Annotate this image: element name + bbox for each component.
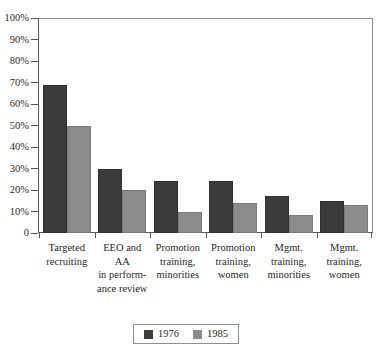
y-axis-tick-label: 50% xyxy=(10,119,29,133)
x-axis-category-label: Mgmt.training,minorities xyxy=(261,241,317,282)
legend-swatch-icon xyxy=(193,330,202,339)
x-axis-category-label-line: women xyxy=(207,268,261,282)
bar-1976-0 xyxy=(43,85,67,233)
bar-1985-4 xyxy=(289,215,313,233)
y-axis-tick-label: 10% xyxy=(10,205,29,219)
x-axis-category-label-line: ance review xyxy=(96,282,150,296)
y-axis-tick-label: 30% xyxy=(10,162,29,176)
legend-swatch-icon xyxy=(144,330,153,339)
y-axis-tick-mark xyxy=(31,168,38,169)
x-axis-tick-mark xyxy=(39,233,40,238)
x-axis-category-label: Mgmt.training,women xyxy=(317,241,373,282)
x-axis-tick-mark xyxy=(261,233,262,238)
y-axis-tick: 80% xyxy=(0,54,38,68)
y-axis-tick: 70% xyxy=(0,76,38,90)
legend-label: 1976 xyxy=(158,328,179,340)
y-axis-tick: 40% xyxy=(0,140,38,154)
x-axis-category-label: Promotiontraining,minorities xyxy=(150,241,206,282)
legend-entry[interactable]: 1985 xyxy=(193,328,228,340)
y-axis: 010%20%30%40%50%60%70%80%90%100% xyxy=(0,0,38,251)
x-axis-category-label-line: Targeted xyxy=(40,241,94,255)
y-axis-tick-label: 80% xyxy=(10,54,29,68)
bar-1976-2 xyxy=(154,181,178,233)
y-axis-tick: 10% xyxy=(0,205,38,219)
y-axis-tick-mark xyxy=(31,233,38,234)
y-axis-tick-label: 0 xyxy=(24,226,29,240)
chart-legend: 19761985 xyxy=(133,324,239,344)
x-axis-category-label-line: minorities xyxy=(151,268,205,282)
bar-chart: 010%20%30%40%50%60%70%80%90%100% Targete… xyxy=(0,0,384,351)
bar-group xyxy=(206,18,262,233)
x-axis-category-label-line: Promotion xyxy=(207,241,261,255)
y-axis-tick-mark xyxy=(31,39,38,40)
x-axis-category-label-line: training, xyxy=(262,255,316,269)
bar-1985-5 xyxy=(344,205,368,233)
y-axis-tick: 50% xyxy=(0,119,38,133)
x-axis-category-label-line: Mgmt. xyxy=(262,241,316,255)
y-axis-tick-mark xyxy=(31,61,38,62)
y-axis-tick: 30% xyxy=(0,162,38,176)
bar-group xyxy=(317,18,373,233)
y-axis-tick: 60% xyxy=(0,97,38,111)
bar-1985-3 xyxy=(233,203,257,233)
bar-1976-4 xyxy=(265,196,289,233)
bar-1976-3 xyxy=(209,181,233,233)
legend-entry[interactable]: 1976 xyxy=(144,328,179,340)
x-axis-tick-mark xyxy=(206,233,207,238)
x-axis-category-label-line: minorities xyxy=(262,268,316,282)
y-axis-tick-mark xyxy=(31,82,38,83)
x-axis-ticks xyxy=(39,233,372,239)
x-axis-labels: TargetedrecruitingEEO and AAin perform-a… xyxy=(39,241,372,307)
y-axis-tick-mark xyxy=(31,104,38,105)
x-axis-category-label-line: in perform- xyxy=(96,268,150,282)
bar-1976-5 xyxy=(320,201,344,233)
x-axis-category-label-line: women xyxy=(318,268,372,282)
bar-1976-1 xyxy=(98,169,122,234)
y-axis-tick-mark xyxy=(31,147,38,148)
y-axis-tick: 90% xyxy=(0,33,38,47)
y-axis-tick: 0 xyxy=(0,226,38,240)
bars-container xyxy=(39,18,372,233)
y-axis-tick-label: 40% xyxy=(10,140,29,154)
x-axis-tick-mark xyxy=(150,233,151,238)
bar-group xyxy=(150,18,206,233)
x-axis-tick-mark xyxy=(371,233,372,238)
y-axis-tick-label: 90% xyxy=(10,33,29,47)
bar-1985-0 xyxy=(67,126,91,234)
y-axis-tick-label: 20% xyxy=(10,183,29,197)
y-axis-tick-label: 60% xyxy=(10,97,29,111)
bar-group xyxy=(95,18,151,233)
x-axis-category-label-line: EEO and AA xyxy=(96,241,150,268)
bar-group xyxy=(261,18,317,233)
x-axis-category-label-line: Promotion xyxy=(151,241,205,255)
x-axis-category-label: Promotiontraining,women xyxy=(206,241,262,282)
y-axis-tick-label: 100% xyxy=(5,11,30,25)
y-axis-tick-mark xyxy=(31,125,38,126)
bar-1985-2 xyxy=(178,212,202,234)
x-axis-category-label-line: training, xyxy=(207,255,261,269)
x-axis-tick-mark xyxy=(317,233,318,238)
bar-group xyxy=(39,18,95,233)
legend-label: 1985 xyxy=(207,328,228,340)
x-axis-category-label: Targetedrecruiting xyxy=(39,241,95,268)
x-axis-category-label-line: training, xyxy=(151,255,205,269)
y-axis-tick: 20% xyxy=(0,183,38,197)
y-axis-tick: 100% xyxy=(0,11,38,25)
x-axis-category-label: EEO and AAin perform-ance review xyxy=(95,241,151,295)
y-axis-tick-mark xyxy=(31,18,38,19)
x-axis-category-label-line: recruiting xyxy=(40,255,94,269)
x-axis-category-label-line: training, xyxy=(318,255,372,269)
y-axis-tick-label: 70% xyxy=(10,76,29,90)
y-axis-tick-mark xyxy=(31,190,38,191)
bar-1985-1 xyxy=(122,190,146,233)
x-axis-tick-mark xyxy=(95,233,96,238)
y-axis-tick-mark xyxy=(31,211,38,212)
x-axis-category-label-line: Mgmt. xyxy=(318,241,372,255)
